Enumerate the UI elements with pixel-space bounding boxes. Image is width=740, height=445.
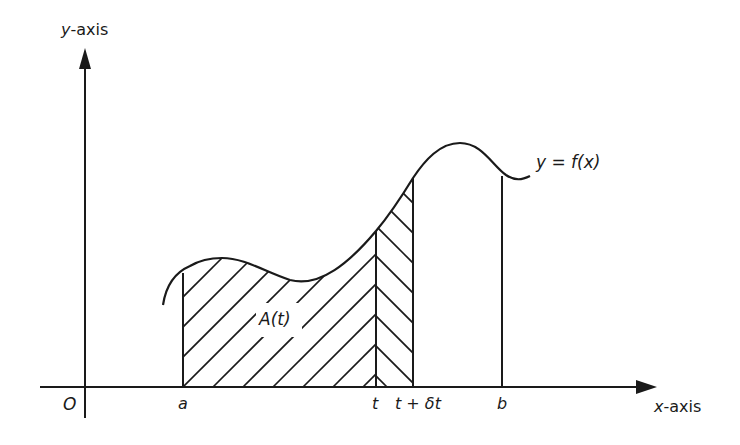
x-axis-arrowhead	[636, 380, 657, 394]
function-curve	[163, 143, 530, 305]
area-label: A(t)	[259, 311, 291, 328]
y-axis-suffix: -axis	[70, 20, 108, 39]
x-axis-label: x-axis	[654, 399, 701, 415]
origin-label: O	[63, 396, 76, 413]
b-label: b	[497, 396, 507, 412]
curve-label: y = f(x)	[536, 154, 600, 171]
x-axis-suffix: -axis	[663, 397, 701, 416]
a-label: a	[178, 396, 188, 412]
t-label: t	[372, 396, 378, 412]
strip-hatching	[360, 120, 440, 440]
t-plus-dt-label: t + δt	[395, 396, 441, 412]
y-axis-arrowhead	[79, 48, 91, 69]
y-axis-label: y-axis	[61, 22, 108, 38]
area-under-curve-diagram	[0, 0, 740, 445]
